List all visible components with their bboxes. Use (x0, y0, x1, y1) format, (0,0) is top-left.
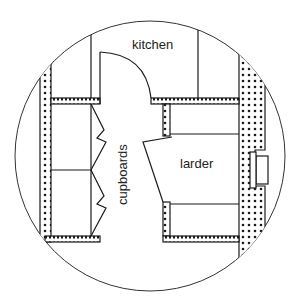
label-larder: larder (180, 156, 214, 171)
shelf-bottom-left (45, 236, 100, 242)
shelf-top-right (151, 98, 239, 104)
cupboard-doors (91, 104, 106, 236)
larder-wall-lower (163, 202, 170, 236)
shelf-bottom-right (163, 236, 239, 242)
shelf-top-left (51, 98, 100, 104)
window (250, 152, 268, 188)
floor-plan-diagram: kitchen larder cupboards (0, 0, 300, 308)
outer-wall-left (40, 50, 51, 242)
label-cupboards: cupboards (115, 144, 130, 205)
larder-door (143, 137, 172, 202)
kitchen-door-swing (100, 52, 151, 104)
larder-wall-upper (163, 104, 170, 136)
label-kitchen: kitchen (132, 37, 173, 52)
